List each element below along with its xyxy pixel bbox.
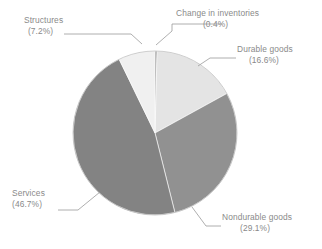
slice-label-nondurable-goods-name: Nondurable goods	[222, 212, 292, 222]
slice-label-structures-percent: (7.2%)	[24, 26, 63, 37]
pie-chart-figure: Structures (7.2%) Change in inventories …	[0, 0, 322, 249]
slice-label-services-name: Services	[12, 188, 45, 198]
leader-line-nondurable-goods	[192, 207, 221, 226]
slice-label-durable-goods: Durable goods (16.6%)	[237, 44, 293, 66]
slice-label-change-in-inventories: Change in inventories (0.4%)	[176, 8, 259, 30]
leader-line-durable-goods	[198, 58, 236, 66]
slice-label-durable-goods-name: Durable goods	[237, 44, 293, 54]
slice-label-services-percent: (46.7%)	[12, 199, 45, 210]
slice-label-structures: Structures (7.2%)	[24, 15, 63, 37]
slice-label-structures-name: Structures	[24, 15, 63, 25]
slice-label-nondurable-goods-percent: (29.1%)	[222, 223, 292, 234]
slice-label-change-in-inventories-name: Change in inventories	[176, 8, 259, 18]
leader-line-services	[58, 192, 100, 210]
leader-line-structures	[64, 34, 142, 44]
slice-label-nondurable-goods: Nondurable goods (29.1%)	[222, 212, 292, 234]
slice-label-services: Services (46.7%)	[12, 188, 45, 210]
slice-label-durable-goods-percent: (16.6%)	[237, 55, 293, 66]
slice-label-change-in-inventories-percent: (0.4%)	[176, 19, 259, 30]
pie-slices-group	[73, 51, 237, 215]
